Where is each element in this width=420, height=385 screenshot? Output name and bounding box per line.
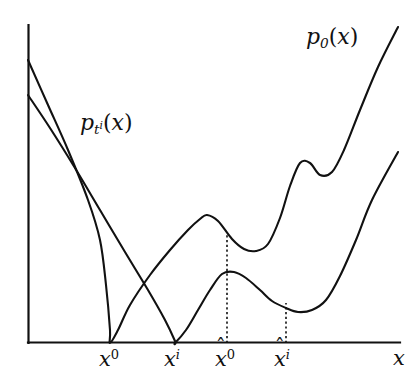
tick-label-xhat0: ˆx0 [215,348,235,370]
tick-label-xhati: ˆxi [274,348,290,370]
curve-label-pti: pti(x) [80,112,133,136]
figure-container: p0(x) pti(x) x0 xi ˆx0 ˆxi x [0,0,420,385]
plot-canvas [0,0,420,385]
curve-p0 [28,27,398,343]
curve-label-p0: p0(x) [306,26,358,50]
tick-label-x0: x0 [99,348,119,370]
tick-label-xi: xi [164,348,180,370]
axis-label-x: x [393,348,405,369]
